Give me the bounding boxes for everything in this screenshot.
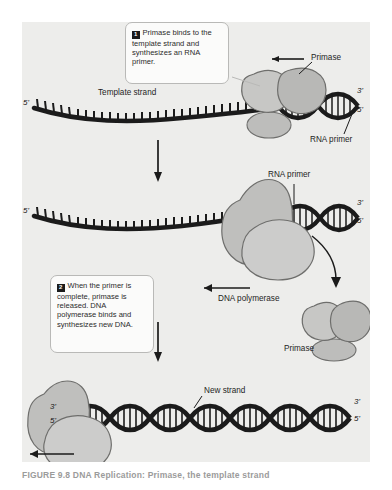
callout-step-1-body: 1Primase binds to the template strand an… <box>126 23 228 72</box>
step-number-2: 2 <box>57 284 65 292</box>
callout-step-1: 1Primase binds to the template strand an… <box>125 22 229 84</box>
label-template-strand: Template strand <box>98 88 156 97</box>
step-1-text: Primase binds to the template strand and… <box>132 28 212 66</box>
label-new-strand: New strand <box>204 386 245 395</box>
diagram-panel: 1Primase binds to the template strand an… <box>22 22 370 462</box>
primase-complex-panel1 <box>242 68 326 138</box>
label-3prime-right-panel2: 3' <box>357 198 363 207</box>
label-5prime-left-panel3: 5' <box>50 416 56 425</box>
template-strand-backbone-2 <box>34 216 244 229</box>
label-5prime-right-panel1: 5' <box>357 105 363 114</box>
label-5prime-left-panel1: 5' <box>23 98 29 107</box>
label-rna-primer-panel1: RNA primer <box>310 135 352 144</box>
panel-3-group <box>28 381 350 462</box>
template-strand-teeth-2 <box>37 207 238 230</box>
label-3prime-left-panel3: 3' <box>50 402 56 411</box>
label-3prime-right-panel1: 3' <box>357 86 363 95</box>
label-5prime-left-panel2: 5' <box>23 206 29 215</box>
release-curved-arrow <box>312 236 341 288</box>
label-5prime-right-panel3: 5' <box>354 414 360 423</box>
flow-down-arrow-1 <box>154 140 162 182</box>
figure-caption: FIGURE 9.8 DNA Replication: Primase, the… <box>22 470 370 490</box>
flow-down-arrow-2 <box>154 322 162 362</box>
callout-step-2-body: 2When the primer is complete, primase is… <box>51 276 153 334</box>
direction-left-arrow-panel2 <box>204 284 250 292</box>
label-dna-polymerase: DNA polymerase <box>218 294 279 303</box>
dna-helix-panel3 <box>70 405 350 431</box>
step-number-1: 1 <box>132 31 140 39</box>
figure-root: 1Primase binds to the template strand an… <box>0 0 392 490</box>
step-2-text: When the primer is complete, primase is … <box>57 281 133 329</box>
dna-polymerase-panel3 <box>28 381 112 462</box>
callout-step-2: 2When the primer is complete, primase is… <box>50 275 154 353</box>
dna-polymerase-panel2 <box>222 180 314 281</box>
label-3prime-right-panel3: 3' <box>354 397 360 406</box>
replication-diagram <box>22 22 370 462</box>
label-5prime-right-panel2: 5' <box>357 216 363 225</box>
label-primase-panel1: Primase <box>311 53 341 62</box>
direction-left-arrow-panel1 <box>272 56 304 62</box>
label-rna-primer-panel2: RNA primer <box>268 170 310 179</box>
label-primase-released: Primase <box>284 344 314 353</box>
